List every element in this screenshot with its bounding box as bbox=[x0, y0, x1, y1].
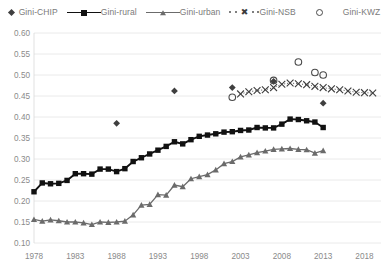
legend-spacer bbox=[58, 12, 67, 13]
y-axis-tick-label: 0.45 bbox=[14, 92, 30, 101]
data-point-x bbox=[303, 81, 310, 88]
data-point-x bbox=[295, 80, 302, 87]
legend-item-gini-urban[interactable]: Gini-urban bbox=[146, 3, 221, 21]
series-gini-rural bbox=[31, 116, 326, 194]
data-point-square bbox=[130, 159, 135, 164]
y-axis-tick-label: 0.15 bbox=[14, 218, 30, 227]
data-point-square bbox=[304, 118, 309, 123]
data-point-x bbox=[336, 86, 343, 93]
data-point-diamond bbox=[320, 100, 327, 107]
chart-legend: Gini-CHIP Gini-rural Gini-urban ✖ Gini-N… bbox=[0, 2, 384, 22]
data-point-square bbox=[213, 131, 218, 136]
data-point-triangle bbox=[171, 182, 177, 188]
data-point-square bbox=[254, 125, 259, 130]
legend-item-gini-kwz[interactable]: Gini-KWZ bbox=[311, 3, 381, 21]
data-point-square bbox=[188, 137, 193, 142]
series-gini-kwz bbox=[229, 59, 326, 101]
series-gini-urban bbox=[31, 145, 326, 227]
legend-spacer bbox=[296, 12, 311, 13]
legend-item-gini-rural[interactable]: Gini-rural bbox=[67, 3, 137, 21]
diamond-marker-icon bbox=[8, 8, 15, 15]
data-point-x bbox=[270, 84, 277, 91]
y-axis-labels: 0.600.550.500.450.400.350.300.250.200.15… bbox=[14, 29, 30, 248]
data-point-x bbox=[254, 87, 261, 94]
data-point-square bbox=[205, 132, 210, 137]
line-triangle-marker-icon bbox=[146, 12, 180, 13]
x-axis-labels: 197819831988199319982003200820132018 bbox=[25, 252, 374, 261]
data-point-square bbox=[155, 147, 160, 152]
data-point-diamond bbox=[113, 120, 120, 127]
data-point-square bbox=[147, 151, 152, 156]
data-point-square bbox=[163, 144, 168, 149]
data-point-square bbox=[238, 128, 243, 133]
x-axis-tick-label: 2013 bbox=[314, 252, 333, 261]
x-axis-tick-label: 1998 bbox=[190, 252, 209, 261]
data-point-square bbox=[279, 121, 284, 126]
data-point-square bbox=[197, 134, 202, 139]
data-point-x bbox=[369, 90, 376, 97]
data-point-triangle bbox=[204, 171, 210, 177]
data-point-triangle bbox=[31, 216, 37, 222]
data-point-square bbox=[73, 171, 78, 176]
x-axis-tick-label: 2018 bbox=[355, 252, 374, 261]
data-point-square bbox=[114, 169, 119, 174]
data-point-square bbox=[81, 171, 86, 176]
chart-svg: 0.600.550.500.450.400.350.300.250.200.15… bbox=[0, 22, 384, 267]
data-point-square bbox=[246, 127, 251, 132]
data-point-diamond bbox=[229, 84, 236, 91]
series-gini-nsb bbox=[237, 80, 376, 98]
data-point-square bbox=[296, 117, 301, 122]
open-circle-marker-icon bbox=[316, 9, 323, 16]
line-square-marker-icon bbox=[67, 12, 101, 13]
data-point-x bbox=[320, 84, 327, 91]
data-point-square bbox=[106, 166, 111, 171]
data-point-square bbox=[31, 189, 36, 194]
series-line bbox=[34, 149, 323, 225]
data-point-square bbox=[172, 139, 177, 144]
x-axis-tick-label: 1988 bbox=[108, 252, 127, 261]
data-point-circle bbox=[229, 94, 236, 101]
grid-lines bbox=[34, 33, 381, 243]
y-axis-tick-label: 0.50 bbox=[14, 71, 30, 80]
legend-item-gini-nsb[interactable]: ✖ Gini-NSB bbox=[229, 3, 295, 21]
chart-root: Gini-CHIP Gini-rural Gini-urban ✖ Gini-N… bbox=[0, 0, 384, 267]
data-point-square bbox=[320, 125, 325, 130]
data-point-square bbox=[40, 180, 45, 185]
chart-plot-area: 0.600.550.500.450.400.350.300.250.200.15… bbox=[0, 22, 384, 267]
legend-item-gini-chip[interactable]: Gini-CHIP bbox=[4, 3, 58, 21]
y-axis-tick-label: 0.35 bbox=[14, 134, 30, 143]
legend-spacer bbox=[220, 12, 229, 13]
y-axis-tick-label: 0.10 bbox=[14, 239, 30, 248]
data-point-square bbox=[89, 171, 94, 176]
legend-label-gini-rural: Gini-rural bbox=[101, 7, 137, 17]
legend-label-gini-chip: Gini-CHIP bbox=[19, 7, 58, 17]
y-axis-tick-label: 0.55 bbox=[14, 50, 30, 59]
data-point-square bbox=[56, 181, 61, 186]
data-point-triangle bbox=[320, 148, 326, 154]
data-point-circle bbox=[295, 59, 302, 66]
y-axis-tick-label: 0.40 bbox=[14, 113, 30, 122]
legend-label-gini-urban: Gini-urban bbox=[180, 7, 221, 17]
y-axis-tick-label: 0.30 bbox=[14, 155, 30, 164]
x-axis-tick-label: 2003 bbox=[231, 252, 250, 261]
data-point-square bbox=[221, 129, 226, 134]
data-point-x bbox=[262, 86, 269, 93]
data-point-square bbox=[48, 181, 53, 186]
legend-label-gini-kwz: Gini-KWZ bbox=[343, 7, 381, 17]
legend-spacer bbox=[137, 12, 146, 13]
data-series bbox=[31, 59, 376, 227]
data-point-square bbox=[122, 166, 127, 171]
y-axis-tick-label: 0.60 bbox=[14, 29, 30, 38]
x-axis-tick-label: 1993 bbox=[149, 252, 168, 261]
data-point-x bbox=[278, 81, 285, 88]
data-point-square bbox=[64, 178, 69, 183]
x-axis-tick-label: 2008 bbox=[273, 252, 292, 261]
data-point-square bbox=[97, 166, 102, 171]
data-point-square bbox=[139, 155, 144, 160]
y-axis-tick-label: 0.25 bbox=[14, 176, 30, 185]
x-axis-tick-label: 1983 bbox=[66, 252, 85, 261]
data-point-square bbox=[230, 129, 235, 134]
data-point-square bbox=[312, 119, 317, 124]
data-point-square bbox=[180, 141, 185, 146]
x-axis-tick-label: 1978 bbox=[25, 252, 44, 261]
